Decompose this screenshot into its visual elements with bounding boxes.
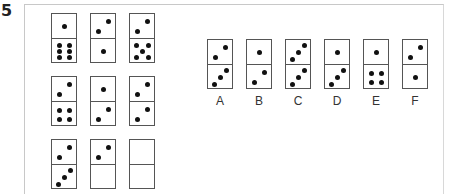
pip-dot	[212, 82, 217, 87]
pip-dot	[106, 107, 111, 112]
option-label-c[interactable]: C	[285, 94, 311, 108]
domino-top-half	[91, 140, 115, 164]
option-domino-e[interactable]	[363, 39, 389, 89]
pip-dot	[329, 82, 334, 87]
pip-dot	[146, 43, 151, 48]
question-number: 5	[1, 1, 12, 20]
domino-top-half	[130, 14, 154, 38]
pip-dot	[369, 80, 374, 85]
domino-top-half	[325, 40, 349, 64]
pip-dot	[96, 29, 101, 34]
pip-dot	[56, 182, 61, 187]
domino-top-half	[52, 140, 76, 164]
grid-domino	[51, 13, 77, 63]
option-label-e[interactable]: E	[363, 94, 389, 108]
pip-dot	[369, 71, 374, 76]
pip-dot	[67, 117, 72, 122]
pip-dot	[57, 55, 62, 60]
pip-dot	[140, 49, 145, 54]
pip-dot	[302, 68, 307, 73]
domino-bottom-half	[91, 38, 115, 63]
grid-domino	[90, 13, 116, 63]
pip-dot	[213, 55, 218, 60]
pip-dot	[57, 43, 62, 48]
domino-top-half	[91, 14, 115, 38]
option-domino-d[interactable]	[324, 39, 350, 89]
domino-top-half	[52, 14, 76, 38]
pip-dot	[106, 145, 111, 150]
option-domino-f[interactable]	[402, 39, 428, 89]
grid-domino	[90, 76, 116, 126]
domino-bottom-half	[364, 64, 388, 89]
pip-dot	[96, 117, 101, 122]
pip-dot	[134, 43, 139, 48]
domino-top-half	[130, 77, 154, 101]
pip-dot	[96, 155, 101, 160]
missing-domino	[129, 139, 155, 189]
pip-dot	[223, 45, 228, 50]
pip-dot	[335, 50, 340, 55]
pip-dot	[296, 75, 301, 80]
pip-dot	[146, 55, 151, 60]
option-label-b[interactable]: B	[246, 94, 272, 108]
pip-dot	[101, 49, 106, 54]
pip-dot	[418, 45, 423, 50]
pip-dot	[379, 71, 384, 76]
pip-dot	[135, 92, 140, 97]
domino-bottom-half	[325, 64, 349, 89]
domino-top-half	[247, 40, 271, 64]
domino-bottom-half	[91, 164, 115, 189]
option-domino-a[interactable]	[207, 39, 233, 89]
option-label-d[interactable]: D	[324, 94, 350, 108]
pip-dot	[224, 68, 229, 73]
domino-bottom-half	[130, 164, 154, 189]
pip-dot	[290, 57, 295, 62]
option-label-a[interactable]: A	[207, 94, 233, 108]
pip-dot	[290, 82, 295, 87]
pip-dot	[135, 29, 140, 34]
domino-bottom-half	[208, 64, 232, 89]
domino-top-half	[208, 40, 232, 64]
pip-dot	[145, 82, 150, 87]
domino-top-half	[130, 140, 154, 164]
domino-top-half	[91, 77, 115, 101]
option-domino-c[interactable]	[285, 39, 311, 89]
pip-dot	[68, 168, 73, 173]
option-domino-b[interactable]	[246, 39, 272, 89]
pip-dot	[408, 55, 413, 60]
pip-dot	[257, 50, 262, 55]
grid-domino	[51, 139, 77, 189]
pip-dot	[67, 55, 72, 60]
pip-dot	[67, 43, 72, 48]
domino-top-half	[364, 40, 388, 64]
domino-bottom-half	[52, 101, 76, 126]
domino-bottom-half	[52, 38, 76, 63]
pip-dot	[62, 175, 67, 180]
pip-dot	[67, 82, 72, 87]
pip-dot	[57, 117, 62, 122]
grid-domino	[51, 76, 77, 126]
pip-dot	[145, 19, 150, 24]
pip-dot	[67, 49, 72, 54]
domino-bottom-half	[403, 64, 427, 89]
grid-domino	[129, 13, 155, 63]
pip-dot	[335, 75, 340, 80]
pip-dot	[67, 145, 72, 150]
domino-top-half	[286, 40, 310, 64]
pip-dot	[135, 117, 140, 122]
domino-bottom-half	[91, 101, 115, 126]
option-label-f[interactable]: F	[402, 94, 428, 108]
domino-bottom-half	[130, 101, 154, 126]
pip-dot	[67, 108, 72, 113]
pip-dot	[341, 68, 346, 73]
pip-dot	[57, 92, 62, 97]
pip-dot	[101, 87, 106, 92]
pip-dot	[379, 80, 384, 85]
pip-dot	[262, 70, 267, 75]
domino-bottom-half	[130, 38, 154, 63]
domino-bottom-half	[286, 64, 310, 89]
domino-top-half	[52, 77, 76, 101]
pip-dot	[296, 50, 301, 55]
pip-dot	[145, 107, 150, 112]
grid-domino	[129, 76, 155, 126]
